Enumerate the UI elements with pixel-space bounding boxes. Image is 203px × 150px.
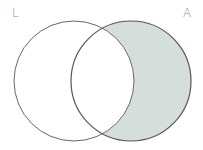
set-label-a: A [183, 6, 191, 20]
set-label-l: L [12, 6, 19, 20]
venn-svg [0, 0, 203, 150]
shaded-region-a-minus-l [71, 21, 191, 141]
